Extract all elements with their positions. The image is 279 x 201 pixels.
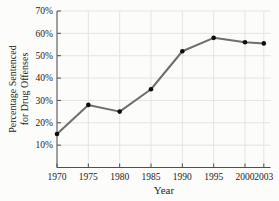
y-tick-label: 60% bbox=[36, 29, 54, 39]
data-point bbox=[180, 49, 185, 54]
x-tick-label: 1975 bbox=[79, 172, 98, 182]
line-chart-canvas: 10%20%30%40%50%60%70%1970197519801985199… bbox=[0, 0, 279, 201]
y-tick-label: 30% bbox=[36, 96, 54, 106]
x-tick-label: 1980 bbox=[110, 172, 129, 182]
x-tick-label: 2000 bbox=[236, 172, 255, 182]
x-tick-label: 1990 bbox=[173, 172, 192, 182]
data-point bbox=[211, 36, 216, 41]
x-tick-label: 1970 bbox=[48, 172, 67, 182]
y-tick-label: 40% bbox=[36, 73, 54, 83]
y-tick-label: 10% bbox=[36, 140, 54, 150]
y-tick-label: 70% bbox=[36, 6, 54, 16]
x-tick-label: 1985 bbox=[142, 172, 161, 182]
data-point bbox=[117, 109, 122, 114]
drug-offenses-line-chart-figure: 10%20%30%40%50%60%70%1970197519801985199… bbox=[0, 0, 279, 201]
x-tick-label: 1995 bbox=[204, 172, 223, 182]
y-tick-label: 50% bbox=[36, 51, 54, 61]
y-axis-title-line2: for Drug Offenses bbox=[19, 45, 31, 132]
y-tick-label: 20% bbox=[36, 118, 54, 128]
data-point bbox=[55, 132, 60, 137]
y-axis-title: Percentage Sentenced for Drug Offenses bbox=[7, 45, 31, 132]
y-axis-title-line1: Percentage Sentenced bbox=[7, 45, 19, 132]
x-axis-title: Year bbox=[154, 184, 174, 196]
data-point bbox=[262, 41, 267, 46]
data-point bbox=[86, 103, 91, 108]
data-point bbox=[149, 87, 154, 92]
data-point bbox=[243, 40, 248, 45]
x-tick-label: 2003 bbox=[254, 172, 273, 182]
